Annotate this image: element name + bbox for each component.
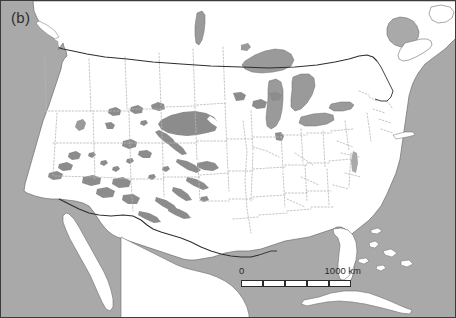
scale-bar-zero-label: 0 — [239, 265, 244, 276]
scale-bar-segment — [241, 280, 263, 287]
scale-bar-segment — [285, 280, 307, 287]
panel-label: (b) — [11, 9, 30, 26]
scale-bar-ticks — [241, 280, 351, 288]
north-america-map — [1, 1, 456, 318]
scale-bar-segment — [307, 280, 329, 287]
figure-panel: (b) 0 1000 km — [0, 0, 456, 318]
scale-bar-max-label: 1000 km — [325, 265, 361, 276]
scale-bar-segment — [329, 280, 351, 287]
scale-bar: 0 1000 km — [239, 267, 357, 293]
scale-bar-segment — [263, 280, 285, 287]
